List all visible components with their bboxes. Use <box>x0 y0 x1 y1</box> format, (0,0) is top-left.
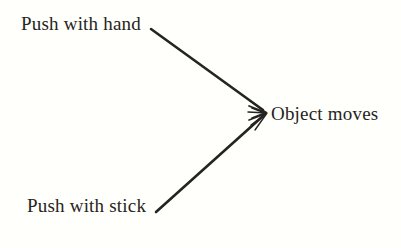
label-push-with-stick: Push with stick <box>27 196 146 215</box>
arrow-stick-to-object <box>156 108 266 212</box>
label-object-moves: Object moves <box>271 104 378 123</box>
arrow-stick-shaft <box>156 116 263 212</box>
diagram-canvas: Push with hand Push with stick Object mo… <box>0 0 401 248</box>
arrow-hand-to-object <box>151 29 266 118</box>
label-push-with-hand: Push with hand <box>21 14 141 33</box>
arrow-hand-shaft <box>151 29 263 110</box>
